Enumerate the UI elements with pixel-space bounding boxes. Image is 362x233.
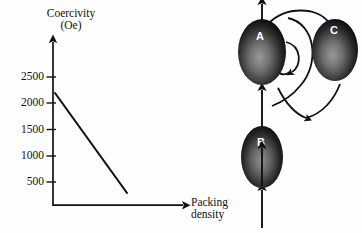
particle-A — [238, 19, 286, 85]
dipolar-interaction-diagram: A C B — [0, 0, 362, 233]
particle-A-label: A — [256, 30, 264, 42]
particle-C-label: C — [330, 24, 338, 36]
figure-canvas: Coercivity (Oe) 2500 2000 1500 1000 500 … — [0, 0, 362, 233]
outer-field-loop-bottom — [272, 86, 300, 106]
outer-field-loop-right — [288, 18, 313, 86]
particle-B-label: B — [257, 136, 265, 148]
lower-field-arc-right — [306, 84, 340, 118]
lower-field-arc-left — [278, 88, 306, 118]
inner-field-loop-right — [286, 42, 299, 72]
